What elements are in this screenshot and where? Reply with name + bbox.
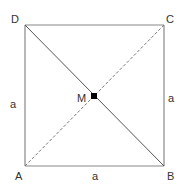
side-label-right: a [168,92,175,104]
label-D: D [11,13,19,25]
label-A: A [15,170,23,182]
square-diagram: D C A B M a a a [0,0,183,188]
side-label-bottom: a [92,170,99,182]
label-B: B [167,170,174,182]
label-M: M [77,92,86,104]
label-C: C [166,13,174,25]
center-point [91,93,97,99]
side-label-left: a [10,98,17,110]
